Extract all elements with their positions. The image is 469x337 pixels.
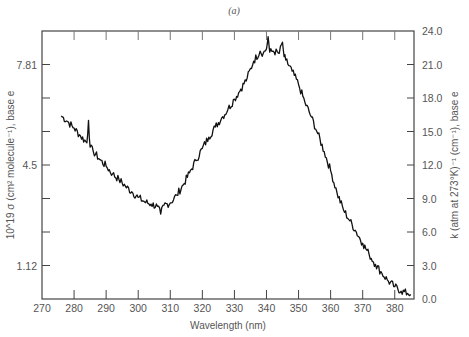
x-tick-label: 320 [194,302,212,314]
x-axis-title: Wavelength (nm) [190,320,266,331]
x-tick-label: 270 [33,302,51,314]
x-tick-label: 290 [97,302,115,314]
right-y-tick-label: 6.0 [422,226,437,238]
x-tick-label: 310 [162,302,180,314]
x-tick-label: 350 [290,302,308,314]
right-y-tick-label: 0.0 [422,293,437,305]
right-y-axis-title: k (atm at 273°K)⁻¹ (cm⁻¹), base e [449,91,460,239]
right-y-tick-label: 15.0 [422,126,443,138]
left-y-tick-label: 1.12 [17,260,38,272]
left-y-tick-label: 7.81 [17,59,38,71]
absorption-curve [61,37,411,296]
right-y-tick-label: 24.0 [422,25,443,37]
x-tick-label: 370 [354,302,372,314]
right-y-tick-label: 9.0 [422,193,437,205]
left-y-tick-label: 4.5 [22,159,37,171]
x-tick-label: 330 [226,302,244,314]
panel-label: (a) [228,5,240,17]
plot-axes [42,31,414,299]
right-y-tick-label: 21.0 [422,59,443,71]
x-tick-label: 280 [65,302,83,314]
right-y-tick-label: 12.0 [422,159,443,171]
x-tick-label: 340 [258,302,276,314]
left-y-axis-title: 10^19 σ (cm² molecule⁻¹), base e [5,90,16,239]
plot-frame [42,31,414,299]
x-tick-label: 360 [322,302,340,314]
x-tick-label: 300 [129,302,147,314]
right-y-tick-label: 18.0 [422,92,443,104]
absorption-chart: (a) 270280290300310320330340350360370380… [0,0,469,337]
right-y-tick-label: 3.0 [422,260,437,272]
x-tick-label: 380 [386,302,404,314]
